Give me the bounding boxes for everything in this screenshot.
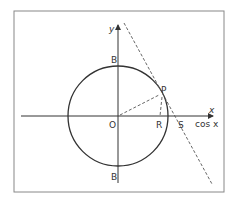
origin-label: O: [109, 120, 116, 130]
point-s-label: S: [178, 120, 184, 130]
unit-circle-diagram: y x cos x B B O P R S: [0, 0, 233, 201]
point-b-bottom-label: B: [111, 172, 117, 182]
point-p-label: P: [161, 85, 167, 95]
x-axis-label: x: [208, 105, 215, 115]
segment-pr: [160, 97, 162, 116]
point-r-label: R: [156, 120, 162, 130]
radius-op: [120, 95, 159, 115]
frame-border: [14, 11, 224, 192]
tangent-line: [124, 23, 212, 184]
point-b-top-label: B: [111, 55, 117, 65]
cos-x-label: cos x: [195, 119, 219, 129]
y-axis-label: y: [108, 24, 115, 34]
